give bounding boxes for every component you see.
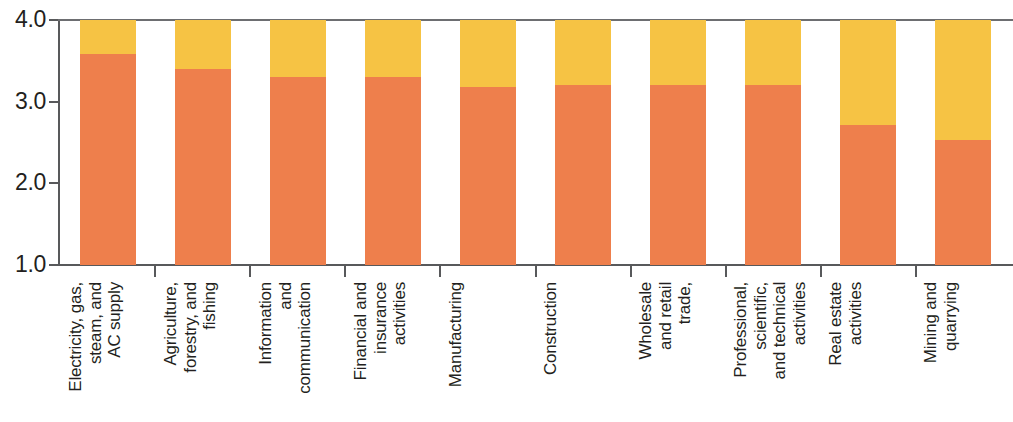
stacked-bar-chart: 1.02.03.04.0 Electricity, gas, steam, an…: [0, 0, 1013, 422]
bar-slot: [60, 20, 155, 265]
y-tick-label: 3.0: [0, 90, 46, 113]
bar-slot: [916, 20, 1011, 265]
bar-segment-lower[interactable]: [650, 85, 706, 265]
stacked-bar[interactable]: [175, 20, 231, 265]
stacked-bar[interactable]: [650, 20, 706, 265]
y-tick-mark: [49, 101, 58, 103]
bar-segment-lower[interactable]: [460, 87, 516, 265]
bar-segment-lower[interactable]: [840, 125, 896, 265]
x-tick-mark: [535, 266, 537, 277]
stacked-bar[interactable]: [840, 20, 896, 265]
bar-segment-lower[interactable]: [270, 77, 326, 265]
y-tick-mark: [49, 182, 58, 184]
x-tick-mark: [630, 266, 632, 277]
x-tick-mark: [725, 266, 727, 277]
x-tick-mark: [154, 266, 156, 277]
x-tick-mark: [820, 266, 822, 277]
y-tick-label: 4.0: [0, 8, 46, 31]
bar-slot: [345, 20, 440, 265]
stacked-bar[interactable]: [745, 20, 801, 265]
bar-segment-upper[interactable]: [365, 20, 421, 77]
bar-segment-lower[interactable]: [80, 54, 136, 265]
plot-area: [60, 20, 1011, 265]
y-tick-label: 2.0: [0, 171, 46, 194]
x-axis-category-label: Manufacturing: [446, 282, 530, 416]
x-axis-category-label: Agriculture, forestry, and fishing: [161, 282, 245, 416]
y-tick-mark: [49, 19, 58, 21]
bar-slot: [250, 20, 345, 265]
bar-segment-upper[interactable]: [460, 20, 516, 87]
x-tick-mark: [344, 266, 346, 277]
stacked-bar[interactable]: [365, 20, 421, 265]
x-axis-category-label: Electricity, gas, steam, and AC supply: [66, 282, 150, 416]
bar-slot: [631, 20, 726, 265]
x-axis-category-label: Professional, scientific, and technical …: [731, 282, 815, 416]
bar-segment-upper[interactable]: [840, 20, 896, 125]
bar-slot: [821, 20, 916, 265]
y-tick-label: 1.0: [0, 253, 46, 276]
stacked-bar[interactable]: [935, 20, 991, 265]
bar-segment-upper[interactable]: [555, 20, 611, 85]
x-tick-mark: [249, 266, 251, 277]
stacked-bar[interactable]: [270, 20, 326, 265]
x-axis-category-label: Real estate activities: [826, 282, 910, 416]
bar-slot: [536, 20, 631, 265]
bar-segment-upper[interactable]: [80, 20, 136, 54]
bar-slot: [726, 20, 821, 265]
x-axis-category-label: Financial and insurance activities: [351, 282, 435, 416]
x-axis-category-label: Mining and quarrying: [921, 282, 1005, 416]
bar-segment-lower[interactable]: [365, 77, 421, 265]
bar-segment-upper[interactable]: [270, 20, 326, 77]
bar-segment-lower[interactable]: [175, 69, 231, 265]
bar-segment-lower[interactable]: [555, 85, 611, 265]
bar-segment-lower[interactable]: [745, 85, 801, 265]
bar-slot: [155, 20, 250, 265]
bar-slot: [440, 20, 535, 265]
x-tick-mark: [915, 266, 917, 277]
y-tick-mark: [49, 264, 58, 266]
x-axis-category-label: Construction: [541, 282, 625, 416]
x-axis-category-label: Wholesale and retail trade,: [636, 282, 720, 416]
x-axis-category-label: Information and communication: [256, 282, 340, 416]
bar-segment-upper[interactable]: [650, 20, 706, 85]
x-tick-mark: [439, 266, 441, 277]
stacked-bar[interactable]: [555, 20, 611, 265]
bar-segment-upper[interactable]: [745, 20, 801, 85]
bar-segment-lower[interactable]: [935, 140, 991, 265]
bar-segment-upper[interactable]: [175, 20, 231, 69]
stacked-bar[interactable]: [80, 20, 136, 265]
stacked-bar[interactable]: [460, 20, 516, 265]
bar-segment-upper[interactable]: [935, 20, 991, 140]
